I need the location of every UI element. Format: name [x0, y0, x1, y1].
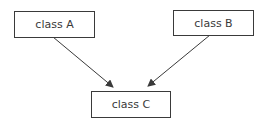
node-label: class C	[112, 98, 150, 111]
edge-b-to-c	[148, 35, 210, 86]
node-label: class A	[35, 18, 73, 31]
node-class-b: class B	[173, 10, 254, 36]
node-class-c: class C	[91, 91, 171, 118]
node-label: class B	[194, 17, 232, 30]
edge-a-to-c	[53, 37, 113, 87]
node-class-a: class A	[14, 11, 95, 38]
